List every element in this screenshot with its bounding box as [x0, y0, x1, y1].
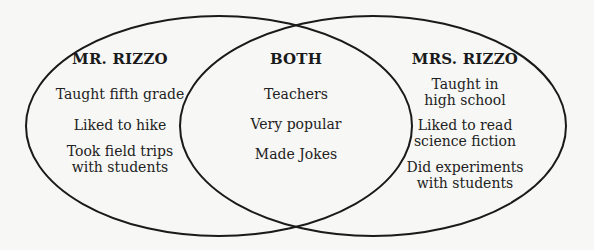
right-item: Liked to read science fiction [395, 117, 535, 149]
both-item: Teachers [226, 86, 366, 102]
both-item: Very popular [226, 116, 366, 132]
right-item: Taught in high school [395, 76, 535, 108]
left-item: Took field trips with students [40, 143, 200, 175]
left-title: MR. RIZZO [60, 50, 180, 68]
both-item: Made Jokes [226, 146, 366, 162]
left-item: Taught fifth grade [40, 86, 200, 102]
left-item: Liked to hike [40, 117, 200, 133]
right-item: Did experiments with students [395, 159, 535, 191]
both-title: BOTH [246, 50, 346, 68]
right-title: MRS. RIZZO [395, 50, 535, 68]
